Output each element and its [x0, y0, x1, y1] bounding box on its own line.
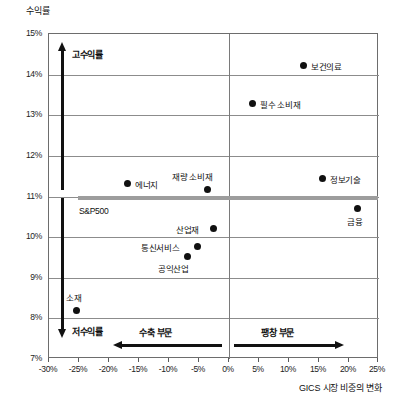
- data-point-industrials: [210, 225, 217, 232]
- gridline-8pct: [49, 318, 379, 319]
- data-point-telecom: [194, 243, 201, 250]
- data-label-financials: 금융: [347, 215, 362, 227]
- x-tick-neg15: -15%: [121, 364, 155, 374]
- expansion-label: 팽창 부문: [261, 326, 294, 339]
- data-label-consumer-discretionary: 재량 소비재: [172, 170, 213, 182]
- y-tick-10: 10%: [12, 231, 42, 241]
- data-point-healthcare: [300, 62, 307, 69]
- x-tickmark-neg15: [138, 358, 139, 362]
- y-tick-9: 9%: [12, 272, 42, 282]
- data-label-healthcare: 보건의료: [311, 60, 342, 72]
- low-return-label: 저수익률: [72, 325, 103, 338]
- arrow-left-shaft: [121, 344, 222, 347]
- y-tick-12: 12%: [12, 150, 42, 160]
- arrow-right-shaft: [234, 344, 336, 347]
- y-tick-11: 11%: [12, 191, 42, 201]
- sp500-reference-line: [78, 196, 378, 200]
- data-label-it: 정보기술: [330, 173, 361, 185]
- gridline-12pct: [49, 156, 379, 157]
- x-tickmark-10: [288, 358, 289, 362]
- data-point-energy: [124, 180, 131, 187]
- data-label-consumer-staples: 필수 소비재: [260, 98, 301, 110]
- contraction-label: 수축 부문: [139, 326, 172, 339]
- y-tick-8: 8%: [12, 312, 42, 322]
- x-tickmark-20: [348, 358, 349, 362]
- data-point-financials: [354, 205, 361, 212]
- arrow-down-head-icon: [58, 329, 66, 338]
- x-tickmark-15: [318, 358, 319, 362]
- x-tickmark-0: [228, 358, 229, 362]
- arrow-right-head-icon: [335, 341, 344, 349]
- data-label-utilities: 공익산업: [158, 262, 189, 274]
- x-tick-15: 15%: [301, 364, 335, 374]
- gridline-14pct: [49, 75, 379, 76]
- data-label-industrials: 산업재: [176, 223, 199, 235]
- scatter-chart: 수익률 15% 14% 13% 12% 11% 10% 9% 8% 7% -30…: [0, 0, 395, 403]
- x-tick-0: 0%: [211, 364, 245, 374]
- data-point-it: [319, 175, 326, 182]
- x-axis-title: GICS 시장 비중의 변화: [299, 381, 382, 394]
- data-point-utilities: [184, 253, 191, 260]
- data-label-telecom: 통신서비스: [141, 241, 180, 253]
- x-tick-10: 10%: [271, 364, 305, 374]
- x-tickmark-neg30: [48, 358, 49, 362]
- contraction-arrow: [113, 341, 222, 350]
- data-point-materials: [73, 307, 80, 314]
- x-tick-neg30: -30%: [31, 364, 65, 374]
- data-label-materials: 소재: [66, 291, 81, 303]
- y-tick-15: 15%: [12, 28, 42, 38]
- y-tick-14: 14%: [12, 69, 42, 79]
- high-return-arrow: [58, 42, 67, 190]
- x-tick-25: 25%: [360, 364, 394, 374]
- x-tick-neg20: -20%: [91, 364, 125, 374]
- x-tick-5: 5%: [241, 364, 275, 374]
- x-tickmark-neg20: [108, 358, 109, 362]
- low-return-arrow: [58, 198, 67, 338]
- expansion-arrow: [234, 341, 344, 350]
- x-tick-neg25: -25%: [61, 364, 95, 374]
- arrow-down-shaft: [61, 198, 64, 330]
- data-point-consumer-staples: [249, 100, 256, 107]
- x-tick-neg5: -5%: [181, 364, 215, 374]
- y-tick-13: 13%: [12, 109, 42, 119]
- x-tickmark-neg10: [168, 358, 169, 362]
- gridline-9pct: [49, 278, 379, 279]
- data-point-consumer-discretionary: [204, 186, 211, 193]
- arrow-up-shaft: [61, 50, 64, 190]
- gridline-10pct: [49, 237, 379, 238]
- gridline-13pct: [49, 115, 379, 116]
- x-tickmark-neg25: [78, 358, 79, 362]
- x-tickmark-neg5: [198, 358, 199, 362]
- high-return-label: 고수익률: [72, 48, 103, 61]
- y-axis-title: 수익률: [26, 4, 49, 17]
- data-label-energy: 에너지: [135, 178, 158, 190]
- x-tickmark-5: [258, 358, 259, 362]
- x-tickmark-25: [377, 358, 378, 362]
- sp500-label: S&P500: [79, 206, 108, 216]
- y-tick-7: 7%: [12, 353, 42, 363]
- x-tick-neg10: -10%: [151, 364, 185, 374]
